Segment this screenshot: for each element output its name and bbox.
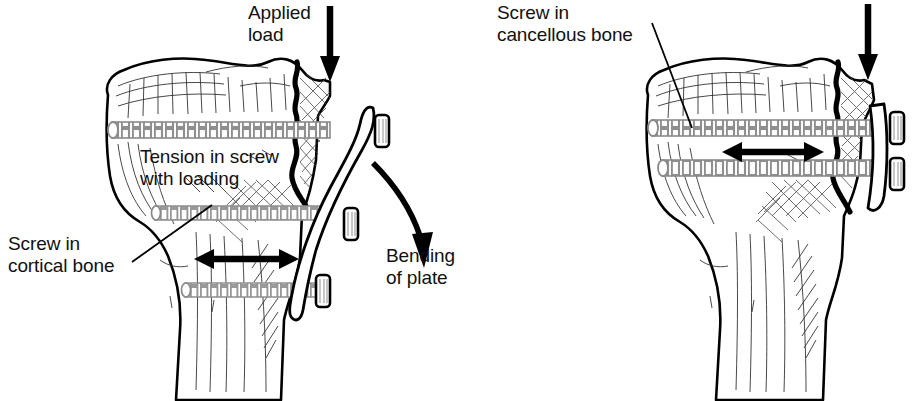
plate-hole-1-right — [890, 112, 904, 144]
bone-outline-right — [647, 58, 874, 400]
screw-2-left — [152, 206, 326, 220]
right-panel — [647, 4, 904, 400]
label-tension-in-screw: Tension in screw with loading — [140, 146, 279, 190]
left-panel — [107, 6, 433, 400]
label-applied-load: Applied load — [248, 2, 311, 46]
applied-load-arrow-right — [858, 4, 878, 80]
plate-hole-2-left — [344, 208, 358, 240]
applied-load-arrow-left — [320, 6, 340, 82]
label-screw-in-cortical-bone: Screw in cortical bone — [8, 233, 114, 277]
label-bending-of-plate: Bending of plate — [386, 245, 455, 289]
screw-1-right — [648, 120, 880, 136]
plate-hole-3-left — [316, 275, 330, 307]
screw-1-left — [108, 122, 330, 138]
plate-hole-1-left — [375, 115, 389, 147]
bone-plate-right — [868, 104, 904, 210]
screw-2-right — [658, 160, 878, 176]
plate-hole-2-right — [890, 158, 904, 190]
figure-canvas: Applied load Tension in screw with loadi… — [0, 0, 912, 401]
bone-fixation-illustration — [0, 0, 912, 401]
label-screw-in-cancellous-bone: Screw in cancellous bone — [497, 2, 633, 46]
